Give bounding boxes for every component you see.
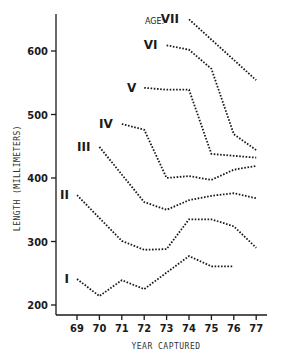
series-label-age-ii: II (60, 188, 69, 202)
x-tick-label: 72 (137, 322, 151, 335)
x-axis-title: YEAR CAPTURED (131, 342, 200, 351)
series-label-age-iv: IV (99, 117, 113, 131)
series-line-age-i (77, 256, 234, 296)
axes (56, 14, 267, 315)
series-line-age-vii (189, 19, 256, 80)
y-tick-label: 300 (27, 236, 48, 249)
series-lines (77, 19, 256, 296)
y-tick-label: 600 (27, 45, 48, 58)
y-tick-label: 200 (27, 299, 48, 312)
x-ticks: 697071727374757677 (70, 315, 263, 335)
x-tick-label: 70 (93, 322, 107, 335)
series-label-age-v: V (127, 81, 137, 95)
series-line-age-iv (122, 124, 256, 180)
x-tick-label: 77 (249, 322, 263, 335)
y-tick-label: 500 (27, 109, 48, 122)
series-line-age-vi (167, 45, 257, 150)
x-tick-label: 71 (115, 322, 129, 335)
x-tick-label: 69 (70, 322, 84, 335)
line-chart: 200300400500600 697071727374757677 LENGT… (0, 0, 281, 359)
age-legend-prefix: AGE: (145, 17, 164, 26)
series-line-age-ii (77, 195, 256, 250)
series-label-age-i: I (65, 272, 69, 286)
y-ticks: 200300400500600 (27, 45, 56, 312)
series-label-age-iii: III (77, 140, 90, 154)
x-tick-label: 75 (205, 322, 219, 335)
x-tick-label: 76 (227, 322, 241, 335)
series-line-age-iii (99, 147, 256, 210)
series-label-age-vi: VI (144, 38, 158, 52)
series-line-age-v (144, 88, 256, 158)
x-tick-label: 74 (182, 322, 196, 335)
y-tick-label: 400 (27, 172, 48, 185)
y-axis-title: LENGTH (MILLIMETERS) (13, 125, 22, 231)
series-labels: IIIIIIIVVVIVII (60, 12, 179, 286)
x-tick-label: 73 (160, 322, 174, 335)
